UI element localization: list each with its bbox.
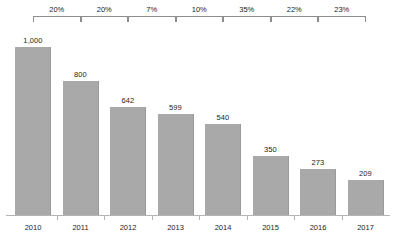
x-axis-label-2012: 2012 [104, 223, 152, 233]
x-axis-label-2015: 2015 [247, 223, 295, 233]
x-axis-label-2014: 2014 [199, 223, 247, 233]
bar-2016 [300, 169, 336, 215]
decline-bracket-2011-2012 [81, 16, 129, 22]
decline-bracket-2014-2015 [223, 16, 271, 22]
bar-value-label-2013: 599 [146, 103, 206, 112]
bar-2012 [110, 107, 146, 215]
decline-bracket-2015-2016 [271, 16, 319, 22]
x-axis-tick [57, 216, 58, 220]
x-axis-tick [152, 216, 153, 220]
bar-2017 [348, 180, 384, 215]
bar-2015 [253, 156, 289, 215]
plot-area: 1,00020108002011642201259920135402014350… [0, 0, 396, 241]
bar-value-label-2010: 1,000 [3, 36, 63, 45]
x-axis-label-2013: 2013 [152, 223, 200, 233]
x-axis-tick [247, 216, 248, 220]
decline-bracket-2013-2014 [176, 16, 224, 22]
bar-2011 [63, 81, 99, 215]
x-axis-tick [104, 216, 105, 220]
decline-bracket-2016-2017 [318, 16, 366, 22]
x-axis-label-2010: 2010 [9, 223, 57, 233]
bar-value-label-2016: 273 [288, 158, 348, 167]
x-axis-tick [294, 216, 295, 220]
x-axis-label-2017: 2017 [342, 223, 390, 233]
decline-bracket-2010-2011 [33, 16, 81, 22]
x-axis-label-2016: 2016 [294, 223, 342, 233]
x-axis-tick [342, 216, 343, 220]
x-axis-tick [199, 216, 200, 220]
bar-chart: 1,00020108002011642201259920135402014350… [0, 0, 396, 241]
decline-label-2016-2017: 23% [308, 5, 376, 14]
bar-2013 [158, 114, 194, 215]
bar-value-label-2017: 209 [336, 169, 396, 178]
decline-bracket-2012-2013 [128, 16, 176, 22]
bar-value-label-2011: 800 [51, 70, 111, 79]
bar-value-label-2014: 540 [193, 113, 253, 122]
bar-2014 [205, 124, 241, 215]
x-axis-line [6, 215, 390, 216]
bar-value-label-2015: 350 [241, 145, 301, 154]
bar-2010 [15, 47, 51, 215]
x-axis-label-2011: 2011 [57, 223, 105, 233]
